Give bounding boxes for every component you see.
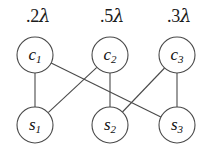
rate-label-c2: .5λ — [96, 7, 124, 25]
node-circle-s3 — [159, 107, 195, 143]
rate-value-c3: .3 — [163, 6, 180, 26]
rate-label-c1: .2λ — [22, 7, 50, 25]
node-circle-s1 — [17, 107, 53, 143]
lambda-symbol-c3: λ — [180, 5, 191, 26]
node-circle-c2 — [92, 37, 128, 73]
rate-value-c1: .2 — [22, 6, 39, 26]
node-circle-s2 — [92, 107, 128, 143]
rate-value-c2: .5 — [96, 6, 113, 26]
rate-label-c3: .3λ — [163, 7, 191, 25]
node-circle-c1 — [17, 37, 53, 73]
bipartite-graph-figure: .2λ .5λ .3λ c1 c2 c3 s1 s2 s3 — [0, 0, 206, 149]
lambda-symbol-c1: λ — [39, 5, 50, 26]
lambda-symbol-c2: λ — [113, 5, 124, 26]
edge-c3-s2 — [122, 68, 164, 112]
node-circle-c3 — [159, 37, 195, 73]
